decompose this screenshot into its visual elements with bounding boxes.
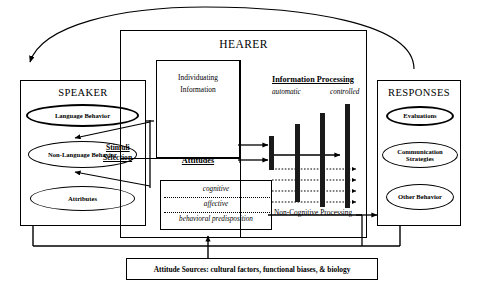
non-cognitive-processing-label: Non-Cognitive Processing [274,208,352,217]
response-node-label: Communication Strategies [383,148,457,163]
processing-bar-1 [269,136,274,170]
attitude-component-behavioral-predisposition: behavioral predisposition [161,215,271,223]
processing-bar-3 [320,113,325,207]
stimuli-selection-line1: Stimuli [106,143,130,152]
attitude-divider-1 [164,197,270,198]
response-node-other-behavior[interactable]: Other Behavior [386,184,454,210]
responses-title: RESPONSES [378,87,460,98]
information-processing-controlled-label: controlled [330,88,359,96]
response-node-communication-strategies[interactable]: Communication Strategies [382,142,458,168]
information-processing-heading: Information Processing [272,75,354,84]
hearer-title: HEARER [121,38,366,50]
response-node-label: Evaluations [403,112,436,119]
individuating-information-line2: Information [156,85,240,94]
hearer-internal-divider [240,60,241,238]
attitude-component-affective: affective [161,200,271,208]
processing-bar-4 [345,104,350,208]
attitudes-panel: cognitive affective behavioral predispos… [160,180,272,230]
processing-bar-2 [295,124,300,202]
attitude-sources-text: Attitude Sources: cultural factors, func… [154,265,351,274]
information-processing-automatic-label: automatic [272,88,301,96]
speaker-node-label: Attributes [68,195,97,202]
speaker-node-language-behavior[interactable]: Language Behavior [26,104,139,127]
attitudes-top-rule [120,158,240,159]
response-node-label: Other Behavior [398,193,442,200]
diagram-canvas: HEARER SPEAKER Language Behavior Non-Lan… [0,0,481,293]
individuating-information-line1: Individuating [156,73,240,82]
response-node-evaluations[interactable]: Evaluations [386,106,454,126]
attitude-divider-2 [164,212,270,213]
speaker-title: SPEAKER [21,87,145,98]
speaker-node-attributes[interactable]: Attributes [30,186,135,211]
speaker-node-label: Language Behavior [55,112,110,119]
attitude-sources-box: Attitude Sources: cultural factors, func… [126,258,378,280]
stimuli-selection-line2: Selection [103,153,132,162]
attitude-component-cognitive: cognitive [161,185,271,193]
